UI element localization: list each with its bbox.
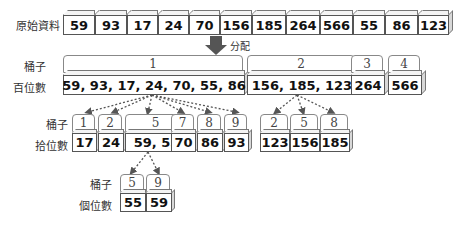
bucket-values-cell: 156, 185, 123 xyxy=(247,75,357,95)
data-cell: 70 xyxy=(189,15,220,35)
data-cell: 93 xyxy=(95,15,127,35)
bucket-label-hundreds: 桶子 xyxy=(2,58,46,74)
bucket-values-cell: 264 xyxy=(351,75,385,95)
bucket-values-cell: 86 xyxy=(197,133,223,152)
bucket-values-cell: 59 xyxy=(146,193,172,212)
bucket-values-cell: 17 xyxy=(72,133,97,152)
bucket-values-cell: 93 xyxy=(224,133,249,152)
bucket-values-cell: 70 xyxy=(171,133,196,152)
hundreds-label: 百位數 xyxy=(2,79,46,95)
tens-label: 拾位數 xyxy=(2,137,68,153)
distribute-label: 分配 xyxy=(230,38,250,53)
data-cell: 566 xyxy=(320,15,353,35)
bucket-values-cell: 185 xyxy=(320,133,350,152)
data-cell: 185 xyxy=(252,15,286,35)
data-cell: 264 xyxy=(286,15,320,35)
bucket-label-tens: 桶子 xyxy=(2,116,68,132)
bucket-values-cell: 156 xyxy=(290,133,320,152)
bucket-values-cell: 55 xyxy=(120,193,146,212)
data-cell: 123 xyxy=(418,15,449,35)
ones-label: 個位數 xyxy=(60,197,112,213)
bucket-label-ones: 桶子 xyxy=(60,176,112,192)
data-cell: 59 xyxy=(63,15,95,35)
bucket-values-cell: 566 xyxy=(388,75,422,95)
data-cell: 156 xyxy=(220,15,252,35)
bucket-values-cell: 123 xyxy=(260,133,290,152)
data-cell: 24 xyxy=(158,15,189,35)
bucket-values-cell: 24 xyxy=(98,133,124,152)
original-data-label: 原始資料 xyxy=(2,17,60,33)
bucket-values-cell: 59, 93, 17, 24, 70, 55, 86 xyxy=(63,75,245,95)
data-cell: 17 xyxy=(127,15,158,35)
data-cell: 86 xyxy=(385,15,418,35)
data-cell: 55 xyxy=(353,15,385,35)
